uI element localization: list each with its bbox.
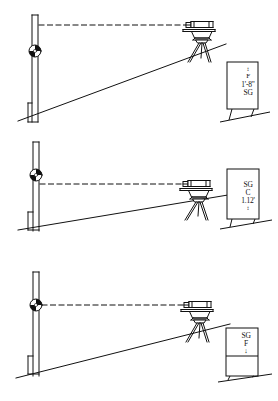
surveyors-level-on-tripod [183,22,215,63]
leveling-rod [28,142,39,231]
leveling-rod [28,15,38,122]
placard-grade-sg: SG [218,89,278,97]
placard-offset-value: 1.12' [218,197,278,205]
bullseye-target [30,169,42,181]
panel-middle: SG C 1.12' ↕ [0,134,278,268]
leveling-rod [28,272,39,376]
panel-top: ↕ F 1'-8" SG [0,0,278,134]
placard-arrow-bottom: ↕ [218,205,278,211]
surveyors-level-on-tripod [180,181,212,221]
figure-sheet: ↕ F 1'-8" SG [0,0,278,401]
ground-slope-line [16,324,230,378]
bullseye-target [30,299,42,311]
panel-bottom: SG F ↓ [0,268,278,401]
surveyors-level-on-tripod [181,302,213,343]
stake-ground-line [220,220,272,229]
placard-mark-f: F [218,73,278,80]
stake-ground-line [220,112,270,122]
bullseye-target [29,45,41,57]
ground-slope-line [18,44,226,121]
placard-arrow-down: ↓ [216,348,276,355]
